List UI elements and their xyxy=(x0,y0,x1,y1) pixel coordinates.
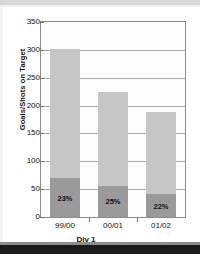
x-axis-tick-mark xyxy=(89,218,90,222)
x-axis-tick-label: 00/01 xyxy=(90,221,136,230)
bar-group[interactable]: 22% xyxy=(146,112,176,217)
bar-segment-shots[interactable] xyxy=(50,49,80,178)
y-axis-tick-label: 50 xyxy=(6,185,40,193)
scan-artifact-bottom-band xyxy=(0,245,200,254)
chart-page: 050100150200250300350 Goals/Shots on Tar… xyxy=(0,0,200,254)
y-axis-tick-label: 0 xyxy=(6,213,40,221)
y-axis-title: Goals/Shots on Target xyxy=(18,30,27,150)
y-axis-tick-label: 350 xyxy=(6,18,40,26)
x-axis-tick-label: 99/00 xyxy=(42,221,88,230)
bar-percentage-label: 22% xyxy=(146,202,176,211)
bar-group[interactable]: 23% xyxy=(50,49,80,217)
x-axis-labels: 99/0000/0101/02 xyxy=(41,221,185,233)
bar-segment-shots[interactable] xyxy=(146,112,176,194)
x-axis-tick-label: 01/02 xyxy=(138,221,184,230)
bar-series-container: 23%25%22% xyxy=(41,22,185,217)
bar-chart: 050100150200250300350 Goals/Shots on Tar… xyxy=(0,7,200,245)
y-axis-tick-mark xyxy=(40,217,44,218)
x-axis-tick-mark xyxy=(137,218,138,222)
bar-segment-shots[interactable] xyxy=(98,92,128,186)
bar-percentage-label: 25% xyxy=(98,197,128,206)
bar-group[interactable]: 25% xyxy=(98,92,128,217)
y-axis-tick-label: 100 xyxy=(6,157,40,165)
bar-percentage-label: 23% xyxy=(50,194,80,203)
